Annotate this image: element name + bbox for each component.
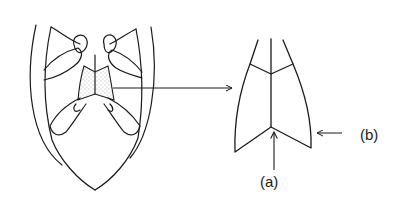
lower-left-inner (74, 104, 80, 111)
inner-body-left (45, 27, 95, 190)
stippled-sternite (78, 66, 114, 100)
outer-shell-left (30, 25, 62, 165)
label-a: (a) (260, 174, 278, 189)
diagram-canvas (0, 0, 408, 211)
label-b: (b) (360, 127, 378, 142)
lower-right-inner (108, 104, 113, 111)
sternite-outline (235, 40, 311, 152)
left-insect-drawing (30, 25, 154, 190)
lower-left-leg (50, 98, 86, 135)
lower-right-leg (104, 98, 140, 135)
right-sternite-drawing (235, 39, 311, 152)
